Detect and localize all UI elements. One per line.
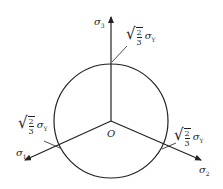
- fraction-denominator: 3: [185, 139, 190, 148]
- axis-label-subscript: 2: [206, 170, 210, 177]
- radius-annotation-left: √ 2 3 σY: [18, 116, 47, 136]
- axis-label-symbol: σ: [16, 147, 23, 158]
- sqrt-sign: √: [174, 127, 184, 149]
- fraction-numerator: 2: [137, 28, 142, 38]
- sqrt-sign: √: [18, 115, 28, 137]
- fraction-numerator: 2: [185, 129, 190, 139]
- origin-label: O: [107, 129, 115, 139]
- sigma-y: σY: [193, 132, 204, 144]
- axis-label-subscript: 3: [101, 22, 105, 29]
- fraction-numerator: 2: [29, 117, 34, 127]
- sqrt-sign: √: [126, 26, 136, 48]
- sigma-y: σY: [145, 31, 156, 43]
- axis-label-subscript: 1: [23, 153, 27, 160]
- diagram-canvas: [0, 0, 223, 189]
- sqrt-expression: √ 2 3: [174, 128, 191, 148]
- axis-label-sigma-2: σ2: [199, 165, 210, 177]
- radius-annotation-right: √ 2 3 σY: [174, 128, 203, 148]
- axis-label-symbol: σ: [94, 16, 101, 27]
- fraction: 2 3: [136, 27, 143, 47]
- sqrt-expression: √ 2 3: [126, 27, 143, 47]
- sigma-subscript: Y: [199, 137, 203, 144]
- fraction-denominator: 3: [137, 38, 142, 47]
- sigma-y: σY: [37, 120, 48, 132]
- sigma-subscript: Y: [151, 36, 155, 43]
- fraction: 2 3: [184, 128, 191, 148]
- radius-annotation-top: √ 2 3 σY: [126, 27, 155, 47]
- axis-label-sigma-1: σ1: [16, 148, 27, 160]
- fraction: 2 3: [28, 116, 35, 136]
- fraction-denominator: 3: [29, 127, 34, 136]
- axis-label-sigma-3: σ3: [94, 17, 105, 29]
- sqrt-expression: √ 2 3: [18, 116, 35, 136]
- axis-label-symbol: σ: [199, 164, 206, 175]
- sigma-subscript: Y: [43, 125, 47, 132]
- leader-top: [112, 46, 127, 62]
